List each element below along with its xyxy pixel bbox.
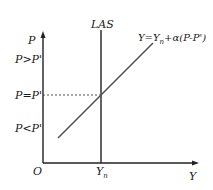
price-level-low-label: P<P' xyxy=(15,123,42,134)
natural-output-sub: n xyxy=(103,172,108,180)
equation-pre: Y=Y xyxy=(138,32,160,43)
x-axis-label: Y xyxy=(189,171,196,182)
origin-label: O xyxy=(33,166,42,177)
y-axis-label: P xyxy=(28,35,35,46)
las-label: LAS xyxy=(91,19,114,30)
supply-equation-label: Y=Yn+α(P-P') xyxy=(138,33,206,46)
price-level-equal-label: P=P' xyxy=(15,90,42,101)
natural-output-label: Yn xyxy=(96,166,108,180)
diagram-canvas: P P>P' P=P' P<P' O Y LAS Yn Y=Yn+α(P-P') xyxy=(0,0,213,190)
x-axis-arrow-icon xyxy=(192,161,199,166)
y-axis-arrow-icon xyxy=(41,31,46,38)
short-run-supply-line xyxy=(58,43,153,138)
equation-post: +α(P-P') xyxy=(164,32,206,43)
price-level-high-label: P>P' xyxy=(15,54,42,65)
